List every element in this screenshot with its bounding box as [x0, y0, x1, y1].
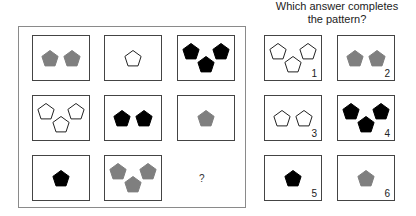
pentagons-icon — [105, 156, 161, 200]
question-line-1: Which answer completes — [262, 0, 412, 13]
answer-option-6[interactable]: 6 — [337, 155, 395, 201]
answer-number: 1 — [311, 68, 317, 79]
answer-option-3[interactable]: 3 — [264, 95, 322, 141]
question-title: Which answer completes the pattern? — [262, 0, 412, 26]
pentagons-icon — [178, 36, 234, 80]
matrix-cell-6 — [177, 95, 235, 141]
matrix-cell-5 — [104, 95, 162, 141]
answer-option-1[interactable]: 1 — [264, 35, 322, 81]
matrix-cell-4 — [32, 95, 90, 141]
answer-number: 2 — [384, 68, 390, 79]
pentagons-icon — [178, 96, 234, 140]
matrix-cell-1 — [32, 35, 90, 81]
pentagons-icon — [33, 36, 89, 80]
matrix-cell-8 — [104, 155, 162, 201]
pentagons-icon — [105, 96, 161, 140]
answer-option-2[interactable]: 2 — [337, 35, 395, 81]
pentagons-icon — [33, 96, 89, 140]
answer-number: 5 — [311, 188, 317, 199]
matrix-cell-3 — [177, 35, 235, 81]
answer-number: 3 — [311, 128, 317, 139]
pentagons-icon — [33, 156, 89, 200]
missing-cell-question-mark: ? — [199, 173, 205, 184]
answer-number: 4 — [384, 128, 390, 139]
question-line-2: the pattern? — [262, 13, 412, 26]
answer-option-5[interactable]: 5 — [264, 155, 322, 201]
answer-number: 6 — [384, 188, 390, 199]
matrix-cell-2 — [104, 35, 162, 81]
matrix-cell-7 — [32, 155, 90, 201]
pentagons-icon — [105, 36, 161, 80]
answer-option-4[interactable]: 4 — [337, 95, 395, 141]
